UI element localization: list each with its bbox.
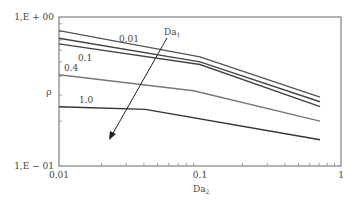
chart: 1,E + 00 1,E − 01 ρ 0.01 0.1 1 Da2 Da1 0… [0, 0, 360, 205]
da1-annotation: Da1 [164, 27, 180, 38]
y-tick-top: 1,E + 00 [14, 12, 54, 22]
series-lines [59, 31, 320, 140]
x-tick-0.01: 0.01 [49, 170, 69, 180]
plot-frame [59, 17, 341, 166]
y-axis-label: ρ [46, 87, 51, 97]
series-label-0.4: 0.4 [64, 63, 79, 73]
x-axis-label: Da2 [193, 184, 210, 195]
series-label-1.0: 1.0 [79, 95, 94, 105]
series-line-2 [59, 44, 320, 107]
x-tick-1: 1 [338, 170, 344, 180]
x-tick-0.1: 0.1 [193, 170, 207, 180]
da1-arrow [109, 38, 167, 140]
series-line-3 [59, 75, 320, 121]
series-line-0 [59, 31, 320, 97]
series-label-0.01: 0.01 [119, 34, 139, 44]
series-label-0.1: 0.1 [78, 53, 92, 63]
